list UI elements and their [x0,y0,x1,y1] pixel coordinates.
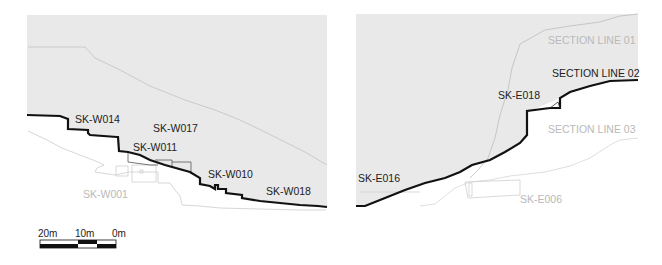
label-sk-w018: SK-W018 [266,185,311,197]
label-sk-w001: SK-W001 [83,188,128,200]
scale-tick-0m: 0m [112,228,126,239]
section-diagram: SK-W014 SK-W017 SK-W011 SK-W010 SK-W018 … [0,0,662,265]
label-sk-e018: SK-E018 [498,89,540,101]
label-sk-e016: SK-E016 [358,172,400,184]
label-sk-w017: SK-W017 [153,122,198,134]
scale-tick-20m: 20m [38,228,57,239]
scale-tick-10m: 10m [75,228,94,239]
label-section-line-03: SECTION LINE 03 [548,123,636,135]
label-sk-w014: SK-W014 [75,113,120,125]
east-panel: SECTION LINE 01 SECTION LINE 02 SECTION … [356,14,640,206]
west-panel-fill [27,15,327,207]
west-panel: SK-W014 SK-W017 SK-W011 SK-W010 SK-W018 … [27,15,327,210]
label-sk-w010: SK-W010 [208,168,253,180]
label-sk-e006: SK-E006 [520,193,562,205]
label-section-line-02: SECTION LINE 02 [552,67,640,79]
label-sk-w011: SK-W011 [133,141,177,153]
label-section-line-01: SECTION LINE 01 [548,34,636,46]
scale-bar: 20m 10m 0m [38,228,126,248]
